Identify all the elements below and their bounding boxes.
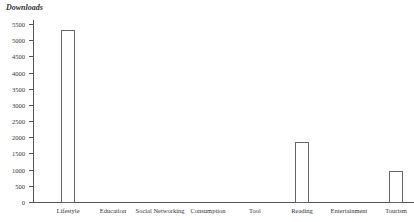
x-axis: [33, 202, 414, 203]
y-tick: [29, 89, 33, 90]
y-tick: [29, 153, 33, 154]
y-tick-label: 3500: [12, 85, 25, 92]
y-tick: [29, 202, 33, 203]
x-tick-label: Social Networking: [136, 207, 185, 214]
y-tick-label: 1500: [12, 150, 25, 157]
y-tick-label: 2000: [12, 134, 25, 141]
x-tick-label: Lifestyle: [56, 207, 79, 214]
y-tick-label: 4500: [12, 53, 25, 60]
y-tick-label: 2500: [12, 118, 25, 125]
y-tick-label: 3000: [12, 101, 25, 108]
x-tick-label: Reading: [291, 207, 313, 214]
y-tick: [29, 105, 33, 106]
y-tick: [29, 40, 33, 41]
y-tick: [29, 170, 33, 171]
x-tick-label: Tourism: [385, 207, 407, 214]
bar-reading: [295, 142, 309, 203]
y-axis-label: Downloads: [6, 3, 43, 12]
y-tick-label: 500: [15, 182, 25, 189]
y-tick: [29, 24, 33, 25]
y-tick-label: 5000: [12, 37, 25, 44]
bar-lifestyle: [61, 30, 75, 203]
y-tick-label: 4000: [12, 69, 25, 76]
y-tick-label: 1000: [12, 166, 25, 173]
x-tick-label: Education: [100, 207, 126, 214]
y-tick: [29, 73, 33, 74]
y-tick-label: 5500: [12, 21, 25, 28]
x-tick-label: Consumption: [190, 207, 225, 214]
y-tick: [29, 56, 33, 57]
y-axis: [33, 20, 34, 203]
x-tick-label: Entertainment: [331, 207, 368, 214]
y-tick: [29, 186, 33, 187]
bar-tourism: [389, 171, 403, 203]
x-tick-label: Tool: [249, 207, 261, 214]
y-tick: [29, 137, 33, 138]
y-tick: [29, 121, 33, 122]
y-tick-label: 0: [22, 199, 25, 206]
